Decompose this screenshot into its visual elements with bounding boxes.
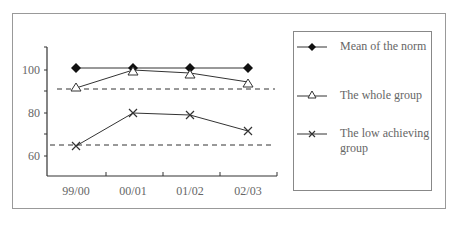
series-line-low-achieving	[76, 113, 248, 146]
y-tick-label: 60	[28, 149, 40, 163]
x-markers	[72, 109, 252, 150]
x-mark-icon	[72, 142, 80, 150]
legend-label-whole-group: The whole group	[340, 88, 430, 103]
y-tick-label: 80	[28, 106, 40, 120]
legend-label-low-achieving: The low achieving group	[340, 126, 430, 156]
x-tick-label: 00/01	[119, 184, 146, 198]
y-tick-label: 100	[22, 63, 40, 77]
x-mark-icon	[244, 127, 252, 135]
x-tick-label: 02/03	[234, 184, 261, 198]
x-tick-label: 99/00	[62, 184, 89, 198]
series-line-whole-group	[76, 70, 248, 88]
diamond-icon	[71, 63, 81, 73]
diamond-icon	[243, 63, 253, 73]
legend-label-mean-norm: Mean of the norm	[340, 39, 430, 54]
legend	[293, 31, 432, 191]
x-tick-label: 01/02	[176, 184, 203, 198]
triangle-icon	[243, 79, 253, 87]
